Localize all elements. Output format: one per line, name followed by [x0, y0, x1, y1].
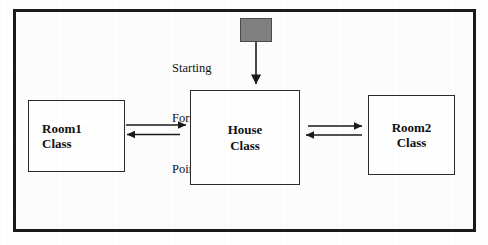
class-box-room2-title: Room2 — [392, 120, 432, 135]
class-box-room2-subtitle: Class — [397, 135, 427, 150]
diagram-canvas: Starting Form Pointer Room1 Class House … — [0, 0, 488, 245]
class-box-house: House Class — [190, 90, 300, 185]
class-box-house-title: House — [228, 122, 263, 137]
starting-form-pointer-box — [240, 18, 272, 42]
pointer-label-line-1: Starting — [172, 60, 238, 77]
class-box-room1: Room1 Class — [28, 100, 125, 172]
class-box-room2: Room2 Class — [368, 95, 455, 175]
class-box-room1-subtitle: Class — [42, 136, 72, 151]
class-box-room1-title: Room1 — [42, 121, 82, 136]
class-box-house-subtitle: Class — [230, 138, 260, 153]
